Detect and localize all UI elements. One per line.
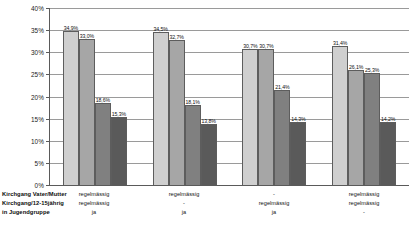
bar-value-label: 13,8% bbox=[202, 118, 216, 124]
y-axis-tick-label: 40% bbox=[31, 5, 44, 12]
row-label: Kirchgang/12-15jährig bbox=[2, 199, 94, 208]
bar-slot: 34,9%33,0%18,6%15,3% bbox=[63, 8, 127, 185]
y-axis-tick-label: 25% bbox=[31, 71, 44, 78]
bar-value-label: 26,1% bbox=[349, 64, 363, 70]
bar-value-label: 30,7% bbox=[259, 43, 273, 49]
y-axis-tick-label: 10% bbox=[31, 137, 44, 144]
y-axis-tick-label: 20% bbox=[31, 93, 44, 100]
category-label: regelmässig-ja bbox=[139, 190, 229, 218]
bar[interactable]: 30,7% bbox=[242, 49, 258, 185]
category-axis-labels: regelmässigregelmässigjaregelmässig-ja-r… bbox=[49, 190, 409, 218]
bar-value-label: 21,4% bbox=[275, 84, 289, 90]
row-label: in Jugendgruppe bbox=[2, 208, 94, 217]
category-label-line: regelmässig bbox=[319, 199, 409, 208]
bar-slot: 30,7%30,7%21,4%14,3% bbox=[242, 8, 306, 185]
bar-value-label: 14,3% bbox=[291, 116, 305, 122]
bar[interactable]: 30,7% bbox=[258, 49, 274, 185]
bar[interactable]: 33,0% bbox=[79, 39, 95, 185]
bar-value-label: 32,7% bbox=[170, 34, 184, 40]
category-label: -regelmässigja bbox=[229, 190, 319, 218]
bar[interactable]: 14,2% bbox=[380, 122, 396, 185]
bar-group: 31,4%26,1%25,3%14,2% bbox=[319, 8, 409, 185]
bar-value-label: 25,3% bbox=[365, 67, 379, 73]
y-tick-mark bbox=[46, 185, 50, 186]
bar-slot: 31,4%26,1%25,3%14,2% bbox=[332, 8, 396, 185]
bar[interactable]: 32,7% bbox=[169, 40, 185, 185]
y-axis-tick-label: 30% bbox=[31, 49, 44, 56]
bar[interactable]: 14,3% bbox=[290, 122, 306, 185]
bar-slot: 34,5%32,7%18,1%13,8% bbox=[153, 8, 217, 185]
y-axis-tick-label: 5% bbox=[35, 159, 44, 166]
bar-chart: 40%35%30%25%20%15%10%5%0% 34,9%33,0%18,6… bbox=[0, 0, 411, 229]
y-axis-tick-label: 35% bbox=[31, 27, 44, 34]
bar[interactable]: 31,4% bbox=[332, 46, 348, 185]
bar-value-label: 33,0% bbox=[80, 33, 94, 39]
category-label-line: regelmässig bbox=[229, 199, 319, 208]
category-label-line: - bbox=[229, 190, 319, 199]
bar-group: 34,5%32,7%18,1%13,8% bbox=[140, 8, 230, 185]
category-label-line: regelmässig bbox=[319, 190, 409, 199]
bar[interactable]: 21,4% bbox=[274, 90, 290, 185]
category-label-line: regelmässig bbox=[139, 190, 229, 199]
bar-value-label: 15,3% bbox=[112, 111, 126, 117]
bar-value-label: 34,5% bbox=[154, 26, 168, 32]
bar-value-label: 18,1% bbox=[186, 99, 200, 105]
bar[interactable]: 15,3% bbox=[111, 117, 127, 185]
category-label-line: - bbox=[139, 199, 229, 208]
bar-group: 30,7%30,7%21,4%14,3% bbox=[230, 8, 320, 185]
y-axis-tick-label: 15% bbox=[31, 115, 44, 122]
bar-groups: 34,9%33,0%18,6%15,3%34,5%32,7%18,1%13,8%… bbox=[50, 8, 409, 185]
bar[interactable]: 34,9% bbox=[63, 31, 79, 185]
category-label-line: ja bbox=[139, 208, 229, 217]
category-label-line: ja bbox=[229, 208, 319, 217]
bar[interactable]: 34,5% bbox=[153, 32, 169, 185]
bar-value-label: 34,9% bbox=[64, 25, 78, 31]
bar[interactable]: 18,6% bbox=[95, 103, 111, 185]
row-label-stub: Kirchgang Vater/MutterKirchgang/12-15jäh… bbox=[2, 190, 94, 218]
bar[interactable]: 25,3% bbox=[364, 73, 380, 185]
bar-value-label: 18,6% bbox=[96, 97, 110, 103]
bar[interactable]: 18,1% bbox=[185, 105, 201, 185]
bar[interactable]: 13,8% bbox=[201, 124, 217, 185]
plot-area: 40%35%30%25%20%15%10%5%0% 34,9%33,0%18,6… bbox=[49, 8, 409, 186]
bar-value-label: 31,4% bbox=[333, 40, 347, 46]
category-label-line: - bbox=[319, 208, 409, 217]
bar[interactable]: 26,1% bbox=[348, 70, 364, 185]
y-axis-tick-label: 0% bbox=[35, 182, 44, 189]
bar-group: 34,9%33,0%18,6%15,3% bbox=[50, 8, 140, 185]
row-label: Kirchgang Vater/Mutter bbox=[2, 190, 94, 199]
bar-value-label: 30,7% bbox=[243, 43, 257, 49]
category-label: regelmässigregelmässig- bbox=[319, 190, 409, 218]
bar-value-label: 14,2% bbox=[381, 116, 395, 122]
